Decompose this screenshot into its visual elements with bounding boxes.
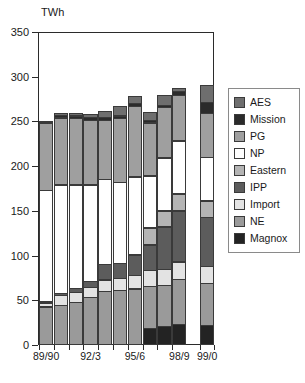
bar-segment-ipp: [128, 255, 142, 276]
bar-column[interactable]: [39, 121, 53, 345]
legend-item-np[interactable]: NP: [234, 145, 295, 162]
bar-segment-np: [200, 157, 214, 202]
bar-column[interactable]: [143, 112, 157, 345]
y-axis-tick-label: 0: [0, 339, 29, 351]
y-axis-tick-label: 300: [0, 71, 29, 83]
bar-segment-pg: [39, 123, 53, 191]
bar-segment-pg: [69, 118, 83, 185]
bar-segment-magnox: [143, 328, 157, 345]
bar-segment-ipp: [143, 245, 157, 271]
bar-segment-magnox: [172, 324, 186, 345]
bar-segment-ne: [157, 285, 171, 327]
legend-swatch-np: [234, 148, 245, 159]
bar-segment-ne: [39, 307, 53, 345]
bar-segment-np: [128, 177, 142, 256]
x-axis-tick-label: 99/0: [197, 350, 217, 362]
chart-legend: AESMissionPGNPEasternIPPImportNEMagnox: [228, 88, 300, 253]
bar-segment-ne: [172, 279, 186, 326]
bar-segment-ipp: [113, 263, 127, 278]
x-axis-tick-mark: [69, 345, 70, 350]
bar-segment-pg: [98, 120, 112, 180]
bar-segment-import: [128, 275, 142, 289]
x-axis-tick-label: 89/90: [33, 350, 59, 362]
legend-label: NP: [250, 148, 265, 159]
bar-segment-import: [143, 270, 157, 287]
bar-column[interactable]: [69, 113, 83, 345]
legend-item-ipp[interactable]: IPP: [234, 179, 295, 196]
legend-label: Mission: [250, 114, 286, 125]
bar-segment-ne: [113, 290, 127, 345]
legend-item-aes[interactable]: AES: [234, 94, 295, 111]
bar-segment-ipp: [172, 211, 186, 263]
bar-column[interactable]: [98, 111, 112, 345]
bar-column[interactable]: [113, 106, 127, 345]
stacked-bar-chart-figure: TWh 350300250200150100500 89/9092/395/69…: [0, 0, 305, 383]
bar-segment-import: [157, 269, 171, 286]
legend-swatch-aes: [234, 97, 245, 108]
bar-segment-ne: [143, 286, 157, 329]
legend-label: Eastern: [250, 165, 286, 176]
legend-item-import[interactable]: Import: [234, 196, 295, 213]
bar-column[interactable]: [83, 114, 97, 345]
legend-swatch-pg: [234, 131, 245, 142]
bar-segment-pg: [113, 118, 127, 182]
bar-segment-pg: [83, 120, 97, 185]
bar-segment-ne: [128, 289, 142, 345]
legend-item-mission[interactable]: Mission: [234, 111, 295, 128]
bar-column[interactable]: [128, 96, 142, 345]
y-axis-tick-label: 250: [0, 115, 29, 127]
bar-segment-magnox: [157, 326, 171, 345]
legend-label: Magnox: [250, 233, 287, 244]
bar-segment-np: [172, 141, 186, 195]
bar-column[interactable]: [54, 113, 68, 345]
bar-segment-eastern: [172, 194, 186, 212]
bars-container: [38, 32, 214, 345]
bar-segment-ipp: [200, 217, 214, 267]
legend-item-eastern[interactable]: Eastern: [234, 162, 295, 179]
legend-swatch-eastern: [234, 165, 245, 176]
legend-label: IPP: [250, 182, 267, 193]
y-axis-unit-label: TWh: [41, 6, 65, 18]
bar-segment-np: [98, 179, 112, 265]
bar-segment-import: [98, 280, 112, 293]
bar-segment-import: [113, 278, 127, 291]
bar-segment-np: [69, 185, 83, 290]
bar-segment-import: [172, 262, 186, 280]
legend-label: AES: [250, 97, 271, 108]
legend-item-pg[interactable]: PG: [234, 128, 295, 145]
bar-segment-np: [143, 176, 157, 229]
bar-segment-ne: [69, 302, 83, 345]
legend-swatch-magnox: [234, 233, 245, 244]
bar-segment-eastern: [200, 201, 214, 218]
bar-segment-np: [54, 185, 68, 294]
bar-segment-eastern: [143, 228, 157, 246]
bar-segment-ne: [98, 291, 112, 345]
bar-segment-pg: [200, 113, 214, 158]
bar-column[interactable]: [157, 95, 171, 345]
bar-segment-eastern: [157, 211, 171, 228]
legend-swatch-import: [234, 199, 245, 210]
legend-item-magnox[interactable]: Magnox: [234, 230, 295, 247]
legend-swatch-ne: [234, 216, 245, 227]
legend-label: PG: [250, 131, 265, 142]
x-axis-tick-mark: [157, 345, 158, 350]
bar-segment-import: [200, 266, 214, 284]
bar-segment-ne: [83, 297, 97, 345]
bar-segment-ipp: [98, 264, 112, 280]
bar-segment-pg: [157, 107, 171, 158]
legend-label: Import: [250, 199, 280, 210]
legend-label: NE: [250, 216, 265, 227]
bar-segment-aes: [200, 85, 214, 103]
y-axis-tick-label: 50: [0, 294, 29, 306]
legend-swatch-mission: [234, 114, 245, 125]
bar-column[interactable]: [200, 85, 214, 345]
x-axis-tick-mark: [113, 345, 114, 350]
legend-item-ne[interactable]: NE: [234, 213, 295, 230]
bar-segment-np: [83, 185, 97, 282]
bar-segment-ne: [200, 283, 214, 326]
bar-segment-pg: [172, 95, 186, 142]
bar-segment-ne: [54, 305, 68, 345]
bar-column[interactable]: [172, 88, 186, 345]
x-axis-tick-label: 95/6: [125, 350, 145, 362]
bar-segment-ipp: [157, 227, 171, 270]
